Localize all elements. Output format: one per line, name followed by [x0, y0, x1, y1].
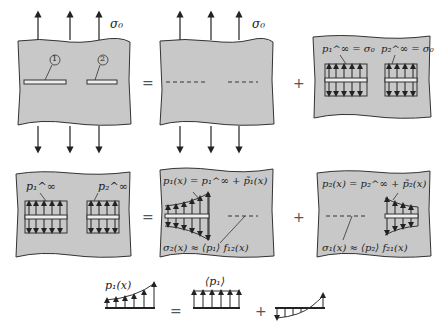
sigma-label-row1-panel1: σ₀	[110, 18, 123, 30]
p1-x-equation: p₁(x) = p₁^∞ + p̃₁(x)	[163, 176, 267, 186]
arrow-down-icon	[38, 126, 99, 150]
p2-x-equation: p₂(x) = p₂^∞ + p̃₂(x)	[322, 179, 426, 189]
crack-2	[87, 80, 117, 84]
plus-sign-row3: +	[255, 304, 267, 318]
plus-sign-row2: +	[293, 210, 305, 224]
row1-panel1-full-problem	[18, 14, 131, 150]
row3-load-decomposition	[105, 283, 325, 318]
equals-sign-row3: =	[170, 304, 182, 318]
p1-inf-label-row2: p₁^∞	[26, 181, 56, 192]
mean-p1-label: ⟨p₁⟩	[205, 276, 225, 287]
equals-sign-row1: =	[142, 76, 154, 90]
superposition-diagram: σ₀ σ₀ 1 2 = + p₁^∞ = σ₀ p₂^∞ = σ₀ p₁^∞ p…	[0, 0, 448, 332]
equals-sign-row2: =	[142, 210, 154, 224]
sigma-label-row1-panel2: σ₀	[252, 18, 265, 30]
p1-inf-label-row1: p₁^∞ = σ₀	[322, 44, 375, 54]
sigma1-x-equation: σ₁(x) ≈ ⟨p₂⟩ f₂₁(x)	[322, 243, 408, 253]
crack-2-number: 2	[100, 55, 105, 63]
row1-panel2-uncracked-plate	[160, 14, 274, 150]
sigma2-x-equation: σ₂(x) ≈ ⟨p₁⟩ f₁₂(x)	[163, 243, 249, 253]
p1-x-label-row3: p₁(x)	[105, 280, 131, 291]
p2-inf-label-row2: p₂^∞	[98, 181, 128, 192]
crack-1	[24, 80, 66, 84]
plus-sign-row1: +	[293, 76, 305, 90]
crack-1-number: 1	[52, 55, 57, 63]
arrow-up-icon	[38, 14, 99, 40]
p2-inf-label-row1: p₂^∞ = σ₀	[381, 44, 434, 54]
